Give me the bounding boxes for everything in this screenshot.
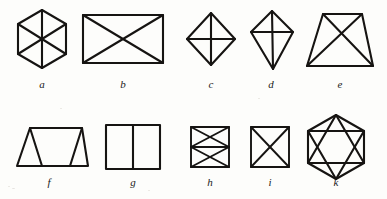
scan-speckle (12, 188, 15, 189)
figure-i-square-with-both-diagonals (248, 124, 292, 170)
figure-label-a: a (27, 78, 57, 90)
scan-speckle (8, 186, 10, 187)
figure-label-b: b (108, 78, 138, 90)
figure-a-hexagon-with-three-diameters (14, 6, 70, 72)
figure-label-k: k (321, 176, 351, 188)
figure-label-c: c (196, 78, 226, 90)
figure-label-i: i (255, 176, 285, 188)
scan-speckle (60, 108, 62, 109)
figure-label-g: g (118, 176, 148, 188)
figure-c-rhombus-with-axes (184, 10, 238, 68)
figure-e-trapezoid-with-both-diagonals (303, 10, 377, 70)
figure-label-e: e (325, 78, 355, 90)
figure-label-h: h (195, 176, 225, 188)
figure-g-square-split-by-vertical-line (103, 122, 163, 172)
figure-k-hexagon-with-inscribed-hexagram (303, 112, 369, 182)
scan-speckle (148, 190, 150, 191)
figure-d-kite-with-axes (246, 8, 298, 72)
figure-f-trapezoid-with-two-inner-triangles (14, 124, 92, 170)
figure-plate: a b c d (0, 0, 387, 199)
scan-speckle (258, 98, 260, 99)
figure-h-rectangle-with-midline-and-two-crosses (188, 124, 232, 170)
figure-b-rectangle-with-both-diagonals (80, 12, 166, 66)
figure-label-f: f (34, 176, 64, 188)
figure-label-d: d (256, 78, 286, 90)
